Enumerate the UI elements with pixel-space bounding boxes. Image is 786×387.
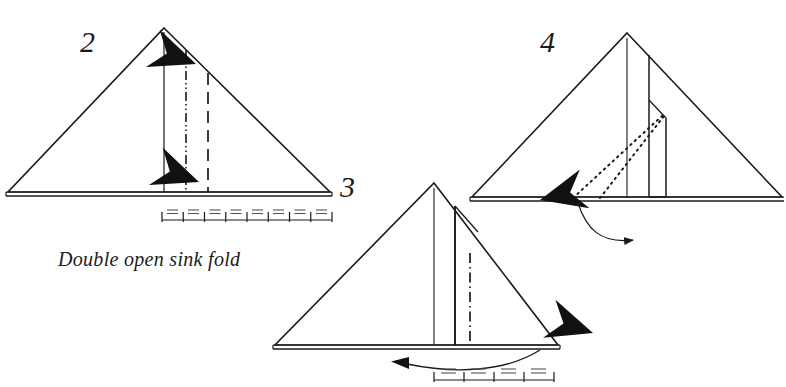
step-4-figure (470, 33, 784, 241)
step-4-curved-unfold-arrow (578, 203, 633, 241)
step-3-measure-scale (434, 369, 554, 382)
step-3-curved-turn-arrow-head (391, 357, 409, 369)
origami-diagram-page: 2 3 4 Double open sink fold (0, 0, 786, 387)
step-3-figure (273, 183, 599, 382)
origami-diagram-canvas (0, 0, 786, 387)
caption-double-open-sink-fold: Double open sink fold (58, 248, 240, 271)
step-label-2: 2 (80, 27, 95, 57)
step-2-figure (6, 28, 332, 222)
step-label-4: 4 (540, 27, 555, 57)
step-3-triangle-outline (275, 183, 558, 345)
step-label-3: 3 (340, 172, 355, 202)
step-3-curved-turn-arrow-path (407, 350, 540, 370)
step-2-measure-scale (162, 210, 332, 222)
